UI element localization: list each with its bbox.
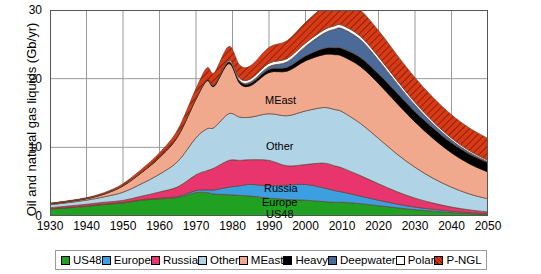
legend-item-us48[interactable]: US48 xyxy=(61,254,102,266)
y-tick-30: 30 xyxy=(8,3,42,17)
legend-label-russia: Russia xyxy=(163,254,198,266)
y-tick-10: 10 xyxy=(8,140,42,154)
legend-item-heavy[interactable]: Heavy xyxy=(283,254,328,266)
inline-label-other: Other xyxy=(266,140,294,152)
legend-item-meast[interactable]: MEast xyxy=(239,254,284,266)
legend-label-us48: US48 xyxy=(73,254,102,266)
legend-swatch-meast xyxy=(239,256,248,265)
legend-label-p-ngl: P-NGL xyxy=(446,254,481,266)
inline-label-europe: Europe xyxy=(262,196,297,208)
legend-swatch-deepwater xyxy=(328,256,337,265)
legend-item-deepwater[interactable]: Deepwater xyxy=(328,254,396,266)
legend-swatch-p-ngl xyxy=(434,256,443,265)
legend-label-meast: MEast xyxy=(251,254,284,266)
legend-label-other: Other xyxy=(210,254,239,266)
legend-swatch-other xyxy=(198,256,207,265)
chart-legend: US48EuropeRussiaOtherMEastHeavyDeepwater… xyxy=(55,250,487,270)
y-tick-20: 20 xyxy=(8,72,42,86)
legend-swatch-heavy xyxy=(283,256,292,265)
legend-label-europe: Europe xyxy=(114,254,151,266)
chart-figure: Oil and natural gas liquids (Gb/yr) 0102… xyxy=(0,0,541,274)
legend-item-russia[interactable]: Russia xyxy=(151,254,198,266)
legend-item-other[interactable]: Other xyxy=(198,254,239,266)
legend-swatch-europe xyxy=(102,256,111,265)
y-axis-title: Oil and natural gas liquids (Gb/yr) xyxy=(24,5,39,235)
inline-label-us48: US48 xyxy=(266,208,294,220)
legend-swatch-polar xyxy=(396,256,405,265)
legend-swatch-russia xyxy=(151,256,160,265)
legend-item-polar[interactable]: Polar xyxy=(396,254,435,266)
inline-label-meast: MEast xyxy=(265,94,296,106)
legend-label-deepwater: Deepwater xyxy=(340,254,396,266)
legend-item-p-ngl[interactable]: P-NGL xyxy=(434,254,481,266)
legend-label-polar: Polar xyxy=(408,254,435,266)
inline-label-russia: Russia xyxy=(264,182,298,194)
x-tick-2050: 2050 xyxy=(465,219,511,233)
legend-swatch-us48 xyxy=(61,256,70,265)
legend-item-europe[interactable]: Europe xyxy=(102,254,151,266)
legend-label-heavy: Heavy xyxy=(295,254,328,266)
